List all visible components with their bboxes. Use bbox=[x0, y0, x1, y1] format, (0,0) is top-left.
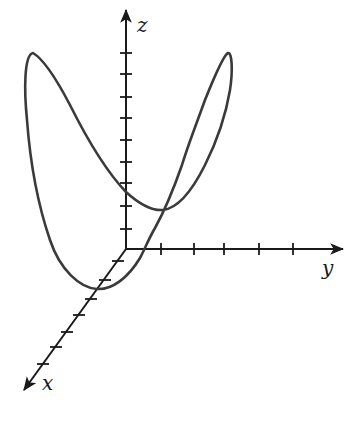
x-axis: x bbox=[24, 249, 126, 395]
x-axis-label: x bbox=[42, 371, 53, 395]
space-curve bbox=[25, 53, 232, 289]
z-axis-label: z bbox=[136, 13, 148, 37]
3d-curve-figure: z y x bbox=[0, 0, 360, 422]
y-axis: y bbox=[126, 243, 343, 280]
y-axis-label: y bbox=[321, 256, 334, 280]
z-axis: z bbox=[120, 10, 148, 249]
